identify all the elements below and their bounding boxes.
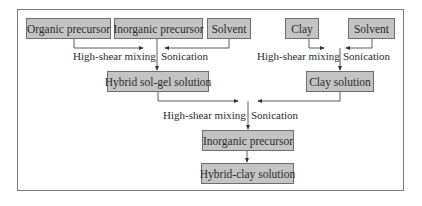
edge-label-right-sonication: Sonication [343,50,390,62]
node-solvent-left: Solvent [207,18,251,39]
node-label: Organic precursor [27,23,110,35]
node-label: Clay [291,23,313,35]
node-solvent-right: Solvent [348,18,395,39]
node-hybrid-sol-gel-solution: Hybrid sol-gel solution [107,71,209,92]
node-label: Solvent [211,23,246,35]
node-label: Clay solution [309,76,371,88]
edge-label-left-sonication: Sonication [161,50,208,62]
node-hybrid-clay-solution: Hybrid-clay solution [201,163,294,184]
edge-label-center-sonication: Sonication [251,109,298,121]
node-label: Hybrid-clay solution [200,168,296,180]
node-inorganic-precursor-bottom: Inorganic precursor [202,130,294,151]
edge-label-right-mixing: High-shear mixing [257,50,340,62]
edge-label-left-mixing: High-shear mixing [73,50,156,62]
node-inorganic-precursor-top: Inorganic precursor [114,18,203,39]
node-label: Inorganic precursor [203,135,293,147]
edge-label-center-mixing: High-shear mixing [163,109,246,121]
node-label: Hybrid sol-gel solution [105,76,212,88]
node-clay-solution: Clay solution [306,71,374,92]
node-label: Solvent [354,23,389,35]
node-clay: Clay [285,18,319,39]
node-label: Inorganic precursor [113,23,203,35]
node-organic-precursor: Organic precursor [26,18,111,39]
